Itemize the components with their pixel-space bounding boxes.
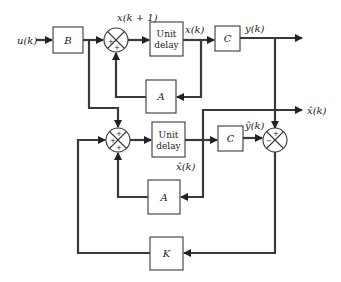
line-a2-to-sum2 (118, 153, 148, 197)
observer-block-diagram: + + + + + + − B Unit delay C A Unit dela… (0, 0, 341, 282)
line-a1-to-sum1 (116, 53, 146, 97)
label-x-k-plus-1: x(k + 1) (117, 12, 158, 23)
label-y-k: y(k) (244, 23, 265, 34)
block-delay-plant-label-1: Unit (157, 29, 177, 39)
block-c-observer-label: C (227, 133, 235, 144)
block-delay-observer-label-1: Unit (159, 130, 179, 140)
block-delay-plant-label-2: delay (154, 40, 179, 50)
sign-error-top: + (273, 130, 279, 138)
label-x-k: x(k) (185, 24, 205, 35)
label-u-k: u(k) (17, 35, 37, 46)
sign-error-left: − (266, 137, 272, 145)
block-c-plant-label: C (224, 33, 232, 44)
sign-observer-top: + (116, 130, 122, 138)
line-sum3-to-k (184, 152, 275, 253)
sign-observer-bottom: + (116, 144, 122, 152)
block-a-plant-label: A (156, 91, 164, 102)
sign-plant-bottom: + (114, 44, 120, 52)
label-xhat-k: x̂(k) (176, 161, 196, 172)
line-b-to-sum2 (89, 40, 118, 127)
block-unit-delay-plant (150, 22, 183, 56)
block-k-label: K (162, 248, 171, 259)
block-b-label: B (63, 35, 71, 46)
block-delay-observer-label-2: delay (156, 141, 181, 151)
label-xhat-k-output: x̂(k) (307, 105, 327, 116)
label-yhat-k: ŷ(k) (244, 120, 265, 131)
block-a-observer-label: A (159, 192, 167, 203)
